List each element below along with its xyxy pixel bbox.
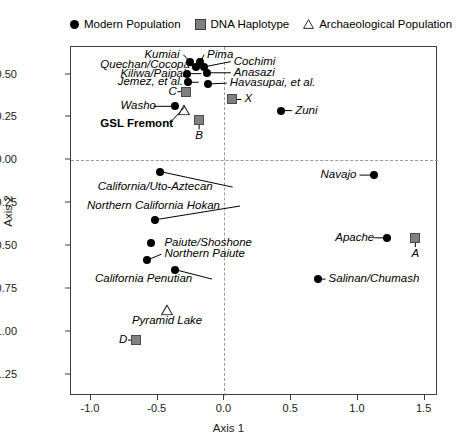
- data-point-circle: [143, 256, 151, 264]
- y-axis-tick-label: -1.25: [0, 368, 17, 380]
- data-point-label: D: [119, 334, 127, 346]
- y-axis-tick-label: -1.00: [0, 325, 17, 337]
- data-point-circle: [192, 63, 200, 71]
- horizontal-reference-line: [71, 160, 438, 161]
- data-point-circle: [151, 216, 159, 224]
- data-point-label: California/Uto-Aztecan: [98, 181, 213, 193]
- x-axis-tick-mark: [90, 395, 91, 400]
- data-point-circle: [383, 234, 391, 242]
- y-axis-tick-label: -0.75: [0, 282, 17, 294]
- data-point-circle: [314, 275, 322, 283]
- y-axis-tick-label: 0.25: [0, 110, 17, 122]
- x-axis-tick-label: -0.5: [135, 402, 179, 414]
- data-point-square: [181, 87, 191, 97]
- data-point-label: Northern Paiute: [164, 248, 245, 260]
- y-axis-tick-label: 0.00: [0, 153, 17, 165]
- data-point-circle: [203, 69, 211, 77]
- data-point-triangle: [161, 302, 173, 313]
- legend-item-archaeological-population: Archaeological Population: [303, 18, 452, 30]
- legend-item-modern-population: Modern Population: [70, 18, 181, 30]
- x-axis-title: Axis 1: [0, 422, 457, 434]
- y-axis-tick-label: 0.50: [0, 68, 17, 80]
- data-point-square: [227, 94, 237, 104]
- data-point-square: [194, 115, 204, 125]
- data-point-label: Pima: [207, 49, 233, 61]
- data-point-label: Washo: [120, 101, 156, 113]
- x-axis-tick-label: 1.5: [402, 402, 446, 414]
- data-point-square: [131, 335, 141, 345]
- data-point-circle: [147, 239, 155, 247]
- data-point-label: Salinan/Chumash: [329, 273, 420, 285]
- triangle-icon: [303, 19, 314, 29]
- data-point-circle: [370, 171, 378, 179]
- data-point-label: A: [411, 248, 419, 260]
- data-point-label: Northern California Hokan: [87, 200, 220, 212]
- legend-item-dna-haplotype: DNA Haplotype: [195, 18, 290, 30]
- square-icon: [195, 19, 206, 30]
- data-point-label: Pyramid Lake: [132, 315, 202, 327]
- data-point-circle: [204, 80, 212, 88]
- y-axis-tick-label: -0.50: [0, 239, 17, 251]
- x-axis-tick-label: 0.5: [268, 402, 312, 414]
- chart-root: Modern Population DNA Haplotype Archaeol…: [0, 0, 457, 448]
- x-axis-tick-label: -1.0: [68, 402, 112, 414]
- y-axis-title: Axis 2: [2, 181, 14, 241]
- data-point-label: Apache: [335, 232, 374, 244]
- data-point-label: Navajo: [321, 169, 357, 181]
- x-axis-tick-mark: [290, 395, 291, 400]
- data-point-triangle: [178, 102, 190, 113]
- x-axis-tick-mark: [157, 395, 158, 400]
- x-axis-tick-mark: [424, 395, 425, 400]
- data-point-label: X: [244, 94, 252, 106]
- legend-label: Modern Population: [84, 18, 181, 30]
- circle-icon: [70, 20, 79, 29]
- vertical-reference-line: [224, 47, 225, 396]
- data-point-label: Zuni: [295, 105, 317, 117]
- x-axis-tick-label: 1.0: [335, 402, 379, 414]
- data-point-circle: [156, 168, 164, 176]
- data-point-label: GSL Fremont: [100, 118, 173, 130]
- plot-area: KumiaiPimaQuechan/CocopaCochimiKiliwa/Pa…: [70, 46, 437, 395]
- x-axis-tick-mark: [357, 395, 358, 400]
- data-point-circle: [277, 107, 285, 115]
- data-point-circle: [184, 78, 192, 86]
- legend-label: Archaeological Population: [319, 18, 452, 30]
- data-point-square: [410, 233, 420, 243]
- data-point-label: Havasupai, et al.: [230, 77, 316, 89]
- data-point-label: California Penutian: [95, 273, 192, 285]
- y-axis-tick-label: -0.25: [0, 196, 17, 208]
- chart-legend: Modern Population DNA Haplotype Archaeol…: [70, 14, 437, 34]
- data-point-label: C: [168, 86, 176, 98]
- x-axis-tick-label: 0.0: [201, 402, 245, 414]
- legend-label: DNA Haplotype: [211, 18, 290, 30]
- data-point-label: B: [195, 131, 203, 143]
